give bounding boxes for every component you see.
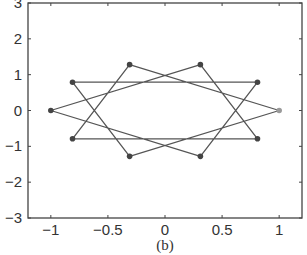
- x-tick-label: −1: [42, 221, 59, 238]
- star-polygon-lines: [51, 65, 279, 157]
- y-axis-ticks: −3−2−10123: [5, 0, 302, 226]
- data-point-marker: [255, 79, 261, 85]
- data-point-marker: [276, 108, 282, 114]
- data-point-marker: [198, 62, 204, 68]
- y-tick-label: 1: [14, 66, 22, 83]
- x-tick-label: 0: [161, 221, 169, 238]
- y-tick-label: 2: [14, 30, 22, 47]
- x-tick-label: 0.5: [212, 221, 233, 238]
- y-tick-label: −3: [5, 209, 22, 226]
- data-point-marker: [255, 136, 261, 142]
- data-point-marker: [198, 154, 204, 160]
- data-point-marker: [48, 108, 54, 114]
- x-tick-label: 1: [275, 221, 283, 238]
- y-tick-label: 0: [14, 102, 22, 119]
- y-tick-label: −2: [5, 173, 22, 190]
- axes-box: [28, 3, 302, 218]
- y-tick-label: −1: [5, 137, 22, 154]
- data-point-marker: [70, 79, 76, 85]
- y-tick-label: 3: [14, 0, 22, 11]
- series-line: [51, 65, 279, 157]
- chart-figure: −1−0.500.51 −3−2−10123 (b): [0, 0, 307, 255]
- data-point-marker: [70, 136, 76, 142]
- data-point-marker: [127, 154, 133, 160]
- figure-caption: (b): [156, 237, 174, 254]
- x-tick-label: −0.5: [93, 221, 123, 238]
- data-point-marker: [127, 62, 133, 68]
- vertex-markers: [48, 62, 282, 159]
